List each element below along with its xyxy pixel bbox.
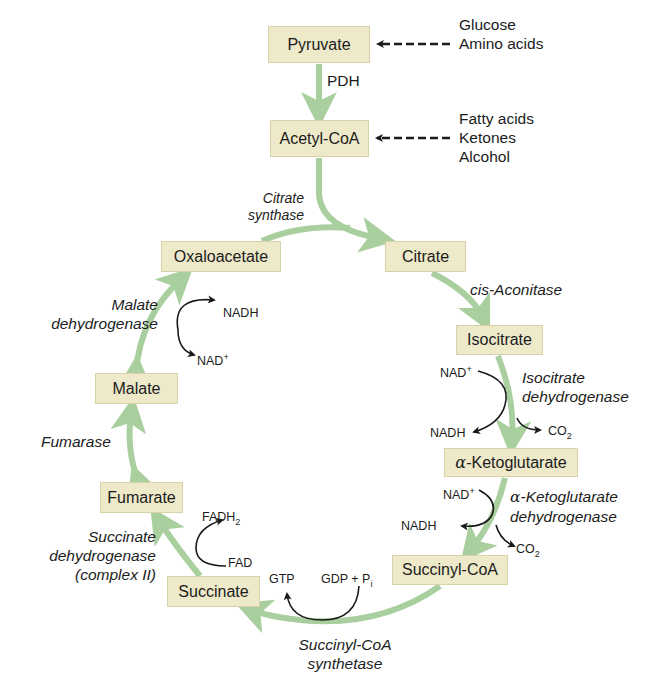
- cofactor-fadh2: FADH2: [202, 510, 240, 529]
- enzyme-alpha-ketoglutarate-dehydrogenase: α-Ketoglutarate dehydrogenase: [510, 487, 618, 526]
- arrow-akg-to-succinylcoa: [472, 478, 505, 548]
- cofactor-arrow-succinylcoa: [287, 586, 359, 620]
- cofactor-arrow-isocitrate: [474, 371, 506, 432]
- cofactor-arrow-isocitrate-co2: [517, 418, 540, 430]
- metabolite-pyruvate: Pyruvate: [268, 26, 370, 63]
- input-list-pyruvate: Glucose Amino acids: [459, 15, 543, 53]
- cofactor-malate-nad: NAD+: [197, 350, 229, 368]
- cofactor-arrow-malate-nadh: [177, 300, 214, 330]
- enzyme-pdh: PDH: [327, 71, 360, 90]
- cofactor-malate-nadh: NADH: [223, 306, 258, 320]
- enzyme-fumarase: Fumarase: [41, 432, 111, 451]
- enzyme-citrate-synthase: Citrate synthase: [244, 190, 304, 224]
- metabolite-oxaloacetate: Oxaloacetate: [161, 241, 281, 272]
- cofactor-akg-co2: CO2: [516, 542, 540, 561]
- metabolite-malate: Malate: [95, 373, 178, 404]
- arrow-succinate-to-fumarate: [160, 522, 200, 576]
- metabolite-succinyl-coa: Succinyl-CoA: [392, 555, 508, 585]
- cofactor-fad: FAD: [228, 556, 252, 570]
- arrow-oxaloacetate-to-citrate: [262, 227, 350, 241]
- metabolite-fumarate: Fumarate: [100, 482, 183, 513]
- metabolite-succinate: Succinate: [167, 576, 260, 607]
- enzyme-malate-dehydrogenase: Malate dehydrogenase: [20, 295, 158, 333]
- tca-cycle-diagram: Pyruvate Acetyl-CoA Oxaloacetate Citrate…: [0, 0, 663, 695]
- cofactor-isocitrate-nad: NAD+: [440, 362, 472, 380]
- cofactor-isocitrate-co2: CO2: [548, 424, 572, 443]
- cofactor-akg-nadh: NADH: [401, 519, 436, 533]
- arrow-isocitrate-to-akg: [498, 356, 512, 438]
- metabolite-isocitrate: Isocitrate: [456, 325, 543, 355]
- pathway-arrows: [0, 0, 663, 695]
- enzyme-isocitrate-dehydrogenase: Isocitrate dehydrogenase: [522, 368, 629, 406]
- arrow-fumarate-malate: [130, 414, 138, 481]
- cofactor-gdp-pi: GDP + Pi: [321, 572, 372, 591]
- metabolite-citrate: Citrate: [385, 241, 466, 272]
- metabolite-acetyl-coa: Acetyl-CoA: [270, 120, 369, 157]
- enzyme-succinate-dehydrogenase: Succinate dehydrogenase (complex II): [20, 527, 156, 584]
- metabolite-alpha-ketoglutarate: α-Ketoglutarate: [444, 448, 578, 477]
- cofactor-akg-nad: NAD+: [443, 484, 475, 502]
- cofactor-arrow-akg-co2: [496, 525, 514, 546]
- arrow-succinylcoa-to-succinate: [252, 586, 440, 621]
- enzyme-cis-aconitase: cis-Aconitase: [470, 280, 562, 299]
- cofactor-gtp: GTP: [269, 572, 295, 586]
- cofactor-arrow-malate-nad: [178, 330, 194, 355]
- input-list-acetyl-coa: Fatty acids Ketones Alcohol: [459, 109, 534, 166]
- cofactor-isocitrate-nadh: NADH: [430, 426, 465, 440]
- enzyme-succinyl-coa-synthetase: Succinyl-CoA synthetase: [270, 635, 420, 673]
